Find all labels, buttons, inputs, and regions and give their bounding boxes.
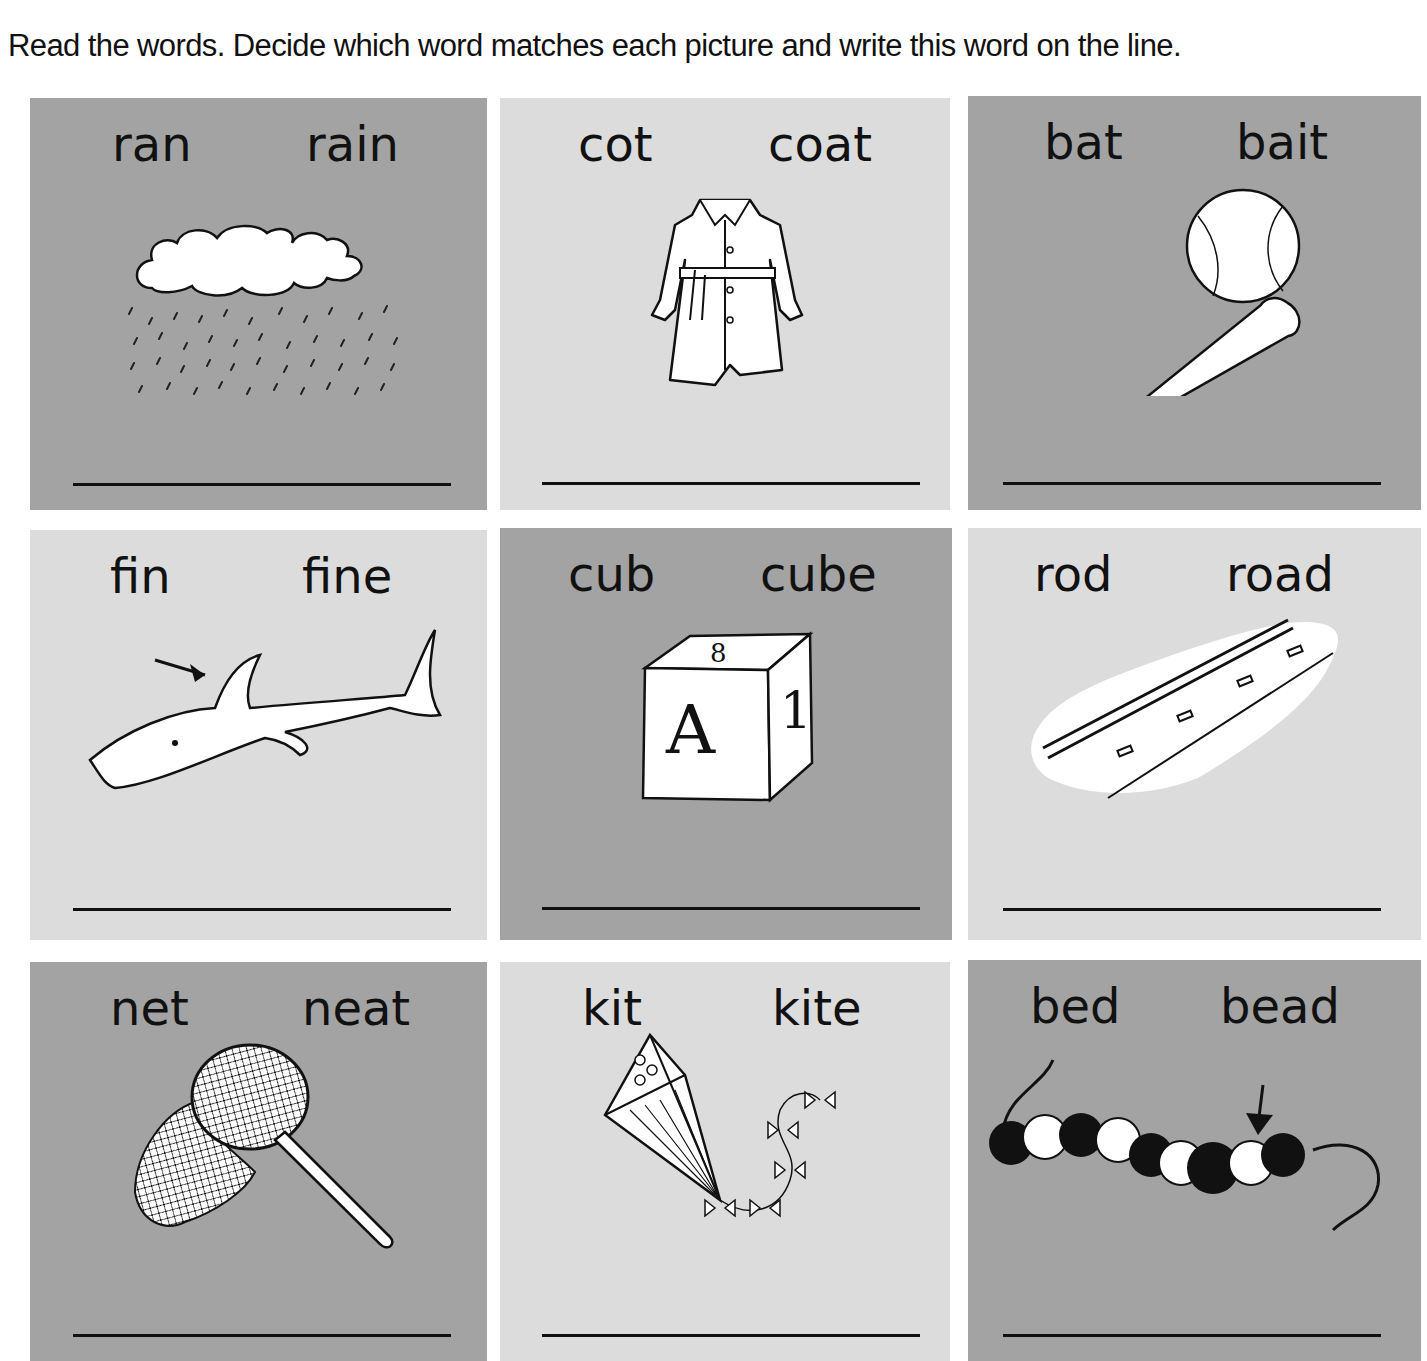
cell-kit-kite: kit kite (500, 962, 950, 1361)
word-option-2: rain (306, 120, 399, 168)
shark-fin-icon (85, 620, 455, 810)
rain-cloud-icon (122, 198, 422, 398)
word-option-2: cube (760, 550, 877, 598)
instructions: Read the words. Decide which word matche… (8, 28, 1181, 64)
word-option-1: cot (578, 120, 653, 168)
word-option-2: neat (302, 984, 410, 1032)
cell-bat-bait: bat bait (968, 96, 1421, 510)
cell-rod-road: rod road (968, 528, 1421, 940)
word-option-2: fine (302, 552, 392, 600)
answer-line[interactable] (542, 907, 920, 910)
answer-line[interactable] (1003, 1334, 1381, 1337)
word-option-1: kit (582, 984, 642, 1032)
word-option-1: fin (110, 552, 171, 600)
word-option-1: cub (568, 550, 655, 598)
word-option-2: coat (768, 120, 872, 168)
fishing-net-icon (125, 1032, 415, 1252)
answer-line[interactable] (73, 483, 451, 486)
answer-line[interactable] (542, 482, 920, 485)
bead-string-icon (983, 1045, 1383, 1245)
word-option-2: bait (1236, 118, 1328, 166)
kite-icon (600, 1030, 840, 1240)
answer-line[interactable] (1003, 908, 1381, 911)
answer-line[interactable] (542, 1334, 920, 1337)
baseball-bat-icon (1088, 186, 1328, 396)
word-option-2: road (1226, 550, 1334, 598)
word-option-1: rod (1034, 550, 1113, 598)
answer-line[interactable] (1003, 482, 1381, 485)
word-option-1: bat (1044, 118, 1123, 166)
toy-block-cube-icon: A 1 8 (640, 628, 820, 808)
word-option-2: bead (1220, 982, 1340, 1030)
cell-net-neat: net neat (30, 962, 487, 1361)
cube-front-letter: A (665, 690, 716, 769)
word-option-1: net (110, 984, 189, 1032)
cube-side-number: 1 (780, 682, 812, 740)
cell-fin-fine: fin fine (30, 530, 487, 940)
answer-line[interactable] (73, 908, 451, 911)
word-option-1: bed (1030, 982, 1120, 1030)
answer-line[interactable] (73, 1334, 451, 1337)
coat-icon (630, 190, 820, 390)
road-icon (1028, 608, 1348, 808)
cell-cot-coat: cot coat (500, 98, 950, 510)
cell-bed-bead: bed bead (968, 960, 1421, 1361)
cell-ran-rain: ran rain (30, 98, 487, 510)
word-option-2: kite (772, 984, 861, 1032)
word-option-1: ran (112, 120, 192, 168)
cell-cub-cube: cub cube A 1 8 (500, 528, 952, 940)
cube-top-number: 8 (710, 638, 727, 668)
